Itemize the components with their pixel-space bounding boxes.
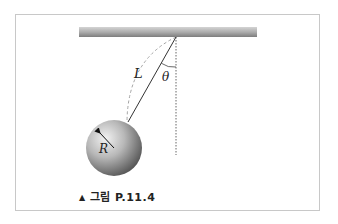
radius-label: R <box>98 142 108 156</box>
ceiling-support <box>79 27 257 37</box>
pendulum-diagram: L θ R <box>0 0 338 224</box>
length-label: L <box>133 66 143 81</box>
triangle-marker-icon: ▲ <box>79 193 86 202</box>
caption-text: 그림 P.11.4 <box>90 191 156 204</box>
angle-label: θ <box>162 70 170 84</box>
figure-caption: ▲그림 P.11.4 <box>79 188 155 204</box>
theta-arc <box>161 63 176 67</box>
